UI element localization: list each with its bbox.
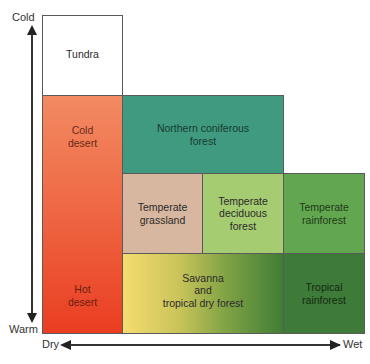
biome-temperate-rainforest: Temperate rainforest	[283, 173, 365, 254]
axis-label-warm: Warm	[9, 323, 38, 335]
temperature-axis-line	[31, 34, 33, 314]
arrow-right-icon	[330, 340, 341, 350]
biome-desert-column: Cold desert Hot desert	[42, 95, 123, 334]
biome-temperate-grassland: Temperate grassland	[122, 173, 203, 254]
biome-savanna-tropical-dry-forest: Savanna and tropical dry forest	[122, 253, 284, 334]
axis-label-dry: Dry	[42, 338, 59, 350]
axis-label-wet: Wet	[343, 338, 362, 350]
moisture-axis-line	[70, 344, 340, 346]
arrow-down-icon	[27, 313, 37, 323]
biome-tropical-rainforest: Tropical rainforest	[283, 253, 365, 334]
biome-temperate-deciduous-forest: Temperate deciduous forest	[202, 173, 284, 254]
axis-label-cold: Cold	[12, 11, 35, 23]
biome-hot-desert: Hot desert	[43, 283, 122, 308]
biome-tundra: Tundra	[42, 15, 123, 96]
biome-cold-desert: Cold desert	[43, 124, 122, 149]
biome-tundra-label: Tundra	[66, 48, 99, 61]
biome-northern-coniferous-forest: Northern coniferous forest	[122, 95, 284, 174]
